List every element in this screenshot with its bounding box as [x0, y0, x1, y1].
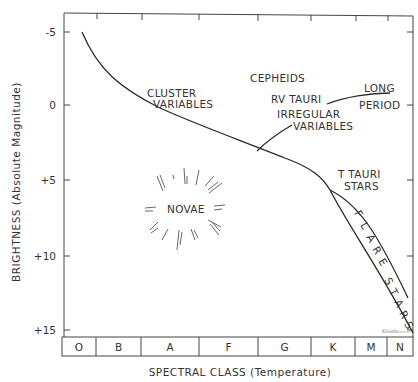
label-t-tauri-stars: STARS	[344, 180, 379, 192]
stars-letter: S	[402, 319, 416, 331]
spectral-class-n: N	[396, 341, 404, 353]
label-t-tauri-stars: T TAURI	[337, 168, 381, 180]
label-cluster-variables: VARIABLES	[153, 98, 213, 110]
label-cepheids: CEPHEIDS	[250, 72, 305, 84]
spectral-class-k: K	[330, 341, 338, 353]
flare-letter: L	[358, 220, 371, 231]
top-border	[64, 13, 413, 16]
spectral-class-f: F	[225, 341, 231, 353]
spectral-class-bar: OBAFGKMN	[62, 337, 413, 356]
y-tick-label: +5	[41, 174, 56, 186]
artist-signature: Knuds	[382, 328, 398, 334]
spectral-class-a: A	[166, 341, 174, 353]
stars-letter: T	[387, 285, 401, 298]
y-tick-label: +10	[34, 250, 56, 262]
spectral-class-g: G	[280, 341, 288, 353]
flare-letter: E	[376, 256, 390, 268]
flare-letter: R	[370, 244, 384, 257]
y-tick-label: -5	[46, 26, 56, 38]
spectral-class-b: B	[115, 341, 122, 353]
y-tick-label: 0	[49, 99, 56, 111]
flare-stars-upper-curve	[330, 190, 408, 298]
y-ticks	[64, 32, 70, 330]
spectral-class-o: O	[75, 341, 83, 353]
y-axis-title: BRIGHTNESS (Absolute Magnitude)	[10, 82, 22, 282]
spectral-class-m: M	[366, 341, 375, 353]
hr-diagram: -5 0 +5 +10 +15 BRIGHTNESS (Absolute Mag…	[0, 0, 418, 382]
y-tick-label: +15	[34, 324, 56, 336]
flare-letter: F	[352, 208, 366, 219]
stars-letter: R	[397, 308, 411, 320]
label-irregular-variables: VARIABLES	[293, 120, 353, 132]
label-long-period: PERIOD	[359, 99, 401, 111]
label-rv-tauri: RV TAURI	[271, 93, 322, 105]
x-axis-title: SPECTRAL CLASS (Temperature)	[149, 366, 332, 378]
right-ticks	[407, 32, 413, 330]
label-novae: NOVAE	[167, 203, 205, 215]
label-flare-stars: FLARESTARS	[352, 208, 416, 331]
label-irregular-variables: IRREGULAR	[277, 108, 340, 120]
stars-letter: S	[382, 275, 396, 287]
label-long-period: LONG	[364, 82, 395, 94]
flare-letter: A	[364, 232, 378, 245]
